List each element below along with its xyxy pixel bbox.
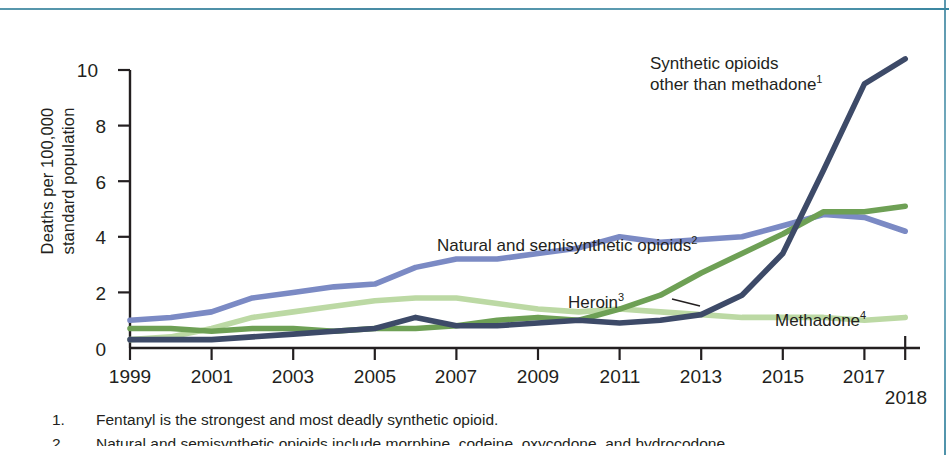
figure-page: Deaths per 100,000 standard population xyxy=(0,0,949,455)
annotation-natural-semisynthetic-opioids-text: Natural and semisynthetic opioids xyxy=(437,236,691,255)
x-tick-1999: 1999 xyxy=(90,367,170,386)
footnote-1-number: 1. xyxy=(52,408,86,432)
x-tick-2015: 2015 xyxy=(743,367,823,386)
x-tick-2007: 2007 xyxy=(416,367,496,386)
x-tick-2013: 2013 xyxy=(661,367,741,386)
x-tick-2005: 2005 xyxy=(335,367,415,386)
footnote-1: 1. Fentanyl is the strongest and most de… xyxy=(0,408,949,432)
y-tick-2: 2 xyxy=(72,284,106,303)
x-tick-2009: 2009 xyxy=(498,367,578,386)
annotation-natural-semisynthetic-opioids-footnote-ref: 2 xyxy=(691,234,697,246)
annotation-synthetic-opioids: Synthetic opioids other than methadone1 xyxy=(650,32,900,95)
annotation-heroin-footnote-ref: 3 xyxy=(618,291,624,303)
annotation-natural-semisynthetic-opioids: Natural and semisynthetic opioids2 xyxy=(437,214,787,256)
footnote-2-text: Natural and semisynthetic opioids includ… xyxy=(96,435,729,446)
y-tick-10: 10 xyxy=(64,61,98,80)
annotation-methadone-text: Methadone xyxy=(775,311,860,330)
x-tick-2001: 2001 xyxy=(172,367,252,386)
footnote-2: 2. Natural and semisynthetic opioids inc… xyxy=(0,432,949,446)
y-tick-8: 8 xyxy=(72,117,106,136)
annotation-methadone: Methadone4 xyxy=(775,289,945,331)
y-tick-4: 4 xyxy=(72,228,106,247)
annotation-heroin-text: Heroin xyxy=(568,293,618,312)
footnote-list: 1. Fentanyl is the strongest and most de… xyxy=(0,408,949,446)
footnote-1-text: Fentanyl is the strongest and most deadl… xyxy=(96,411,498,428)
annotation-synthetic-opioids-footnote-ref: 1 xyxy=(816,73,822,85)
top-rule-decoration xyxy=(0,8,949,10)
annotation-methadone-footnote-ref: 4 xyxy=(860,309,866,321)
footnote-2-number: 2. xyxy=(52,432,86,446)
y-tick-6: 6 xyxy=(72,173,106,192)
x-tick-2018: 2018 xyxy=(866,388,946,407)
annotation-synthetic-opioids-text: Synthetic opioids other than methadone xyxy=(650,54,816,94)
line-chart: Deaths per 100,000 standard population xyxy=(0,14,949,406)
y-tick-0: 0 xyxy=(72,340,106,359)
x-tick-2011: 2011 xyxy=(580,367,660,386)
annotation-heroin: Heroin3 xyxy=(568,271,688,313)
x-tick-2017: 2017 xyxy=(824,367,904,386)
x-tick-2003: 2003 xyxy=(253,367,333,386)
